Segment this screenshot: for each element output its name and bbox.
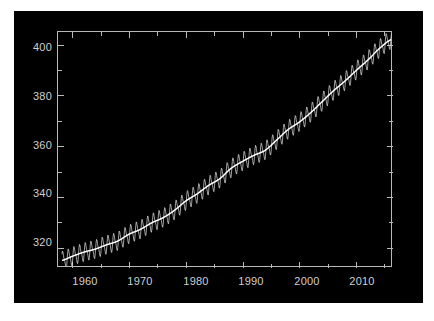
co2-series-layer bbox=[58, 32, 391, 266]
ytick-label-360: 360 bbox=[14, 140, 52, 151]
chart-figure-canvas: 400 380 360 340 320 1960 1970 1980 1990 … bbox=[14, 11, 423, 303]
xtick-label-2010: 2010 bbox=[337, 276, 387, 287]
ytick-label-400: 400 bbox=[14, 42, 52, 53]
xtick-label-1990: 1990 bbox=[226, 276, 276, 287]
xtick-label-1970: 1970 bbox=[115, 276, 165, 287]
plot-data-area bbox=[58, 32, 391, 266]
xtick-label-2000: 2000 bbox=[282, 276, 332, 287]
ytick-label-320: 320 bbox=[14, 237, 52, 248]
screenshot-root: 400 380 360 340 320 1960 1970 1980 1990 … bbox=[0, 0, 434, 321]
ytick-label-380: 380 bbox=[14, 91, 52, 102]
ytick-label-340: 340 bbox=[14, 188, 52, 199]
plot-axes-frame bbox=[57, 31, 392, 267]
xtick-label-1980: 1980 bbox=[171, 276, 221, 287]
co2-monthly-line bbox=[62, 34, 391, 266]
co2-trend-line bbox=[62, 40, 391, 261]
xtick-label-1960: 1960 bbox=[60, 276, 110, 287]
